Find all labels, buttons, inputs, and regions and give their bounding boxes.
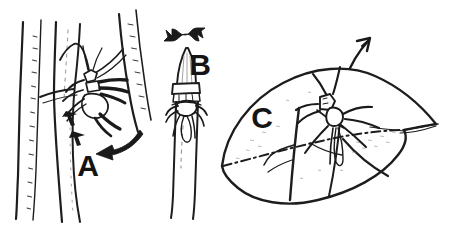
panel-b-label: B [189,48,211,81]
panel-c-label: C [251,101,273,134]
illustration-figure: Hand-drawn line illustration of an insec… [0,0,464,227]
illustration-canvas: A [0,0,464,227]
panel-b-node [172,83,200,102]
panel-a-label: A [77,149,99,182]
